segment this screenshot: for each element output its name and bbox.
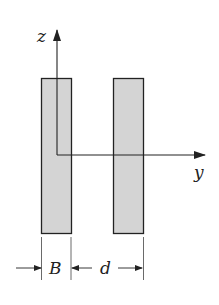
z-axis-label: z [36, 26, 47, 46]
right-plate [114, 79, 144, 234]
y-axis-label: y [193, 162, 204, 182]
diagram-canvas: z y B d [0, 0, 219, 305]
gap-label-d: d [100, 258, 111, 278]
width-label-b: B [48, 258, 62, 278]
